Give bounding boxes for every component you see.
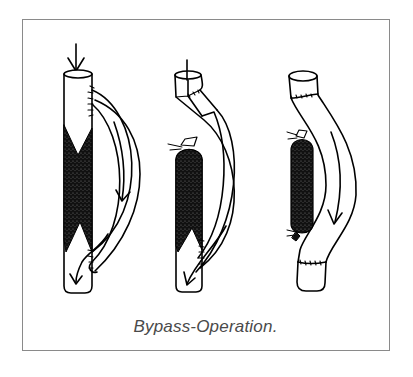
tied-blockage (287, 130, 313, 241)
panel-1 (64, 44, 140, 293)
figure-caption: Bypass-Operation. (0, 317, 413, 337)
bypass-graft-1 (88, 86, 140, 272)
ligature (292, 232, 300, 241)
flow-arrow-icon (184, 226, 226, 285)
panel-3 (287, 71, 356, 291)
inflow-arrow-icon (68, 44, 84, 72)
blockage (176, 150, 202, 253)
panel-2 (168, 60, 234, 292)
flow-arrow-icon (328, 132, 342, 224)
blockage (64, 125, 92, 252)
ligature (296, 130, 307, 138)
ligature (181, 137, 197, 146)
blockage (291, 140, 313, 234)
